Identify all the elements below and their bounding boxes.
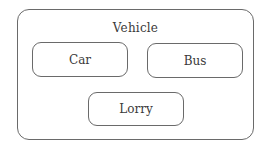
lorry-node: Lorry	[88, 92, 184, 126]
car-label: Car	[69, 53, 91, 67]
bus-label: Bus	[184, 54, 207, 68]
lorry-label: Lorry	[119, 102, 152, 116]
car-node: Car	[32, 42, 128, 77]
bus-node: Bus	[147, 43, 243, 78]
vehicle-label: Vehicle	[18, 21, 253, 35]
